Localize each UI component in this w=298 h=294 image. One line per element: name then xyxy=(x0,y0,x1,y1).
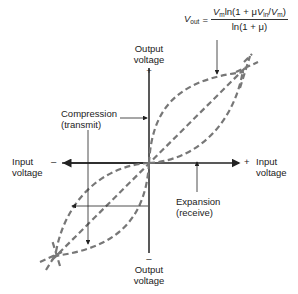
label-line: voltage xyxy=(124,54,174,65)
label-line: Output xyxy=(124,264,174,275)
label-line: voltage xyxy=(256,167,287,178)
label-line: voltage xyxy=(124,275,174,286)
label-line: Input xyxy=(256,156,287,167)
formula-equals: = xyxy=(202,14,208,25)
label-line: Input xyxy=(12,156,43,167)
label-line: (transmit) xyxy=(61,119,117,130)
label-line: voltage xyxy=(12,167,43,178)
input-voltage-left-label: Input voltage xyxy=(12,156,43,178)
minus-sign-left: – xyxy=(51,156,56,167)
label-line: (receive) xyxy=(176,207,220,218)
formula-ln: ln(1 + μ xyxy=(225,6,257,17)
label-line: Expansion xyxy=(176,196,220,207)
plus-sign: + xyxy=(124,65,174,76)
formula-paren: ) xyxy=(283,6,286,17)
output-voltage-bottom-label: – Output voltage xyxy=(124,253,174,286)
formula-fraction: Vmln(1 + μVin/Vm) ln(1 + μ) xyxy=(211,6,288,32)
mu-law-formula: Vout = Vmln(1 + μVin/Vm) ln(1 + μ) xyxy=(184,6,288,32)
label-line: Output xyxy=(124,43,174,54)
plus-sign-right: + xyxy=(244,156,250,167)
label-line: Compression xyxy=(61,108,117,119)
formula-vout-sub: out xyxy=(190,18,199,25)
formula-denominator: ln(1 + μ) xyxy=(232,20,267,32)
input-voltage-right-label: Input voltage xyxy=(256,156,287,178)
expansion-label: Expansion (receive) xyxy=(176,196,220,218)
formula-numerator: Vmln(1 + μVin/Vm) xyxy=(211,6,288,20)
minus-sign: – xyxy=(124,253,174,264)
output-voltage-top-label: Output voltage + xyxy=(124,43,174,76)
compression-label: Compression (transmit) xyxy=(61,108,117,130)
